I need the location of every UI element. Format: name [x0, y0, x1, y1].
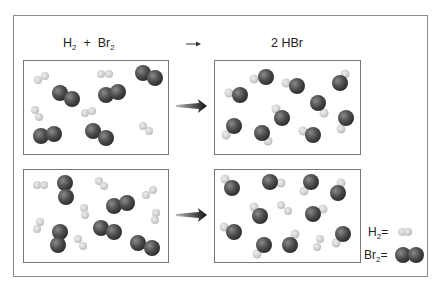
- hbr-molecule-icon: [332, 70, 350, 92]
- hbr-molecule-icon: [305, 205, 328, 223]
- legend-br2-molecule-icon: [395, 247, 424, 263]
- h2-molecule-icon: [34, 72, 49, 84]
- hbr-molecule-icon: [222, 118, 243, 140]
- h2-molecule-icon: [139, 122, 153, 135]
- legend-br2-text: Br: [364, 248, 376, 262]
- hbr-molecule-icon: [253, 237, 273, 259]
- hbr-molecule-icon: [330, 179, 346, 202]
- br2-molecule-icon: [50, 224, 68, 253]
- h2-molecule-icon: [151, 209, 160, 224]
- hbr-molecule-icon: [300, 174, 320, 196]
- hbr-molecule-icon: [299, 127, 322, 144]
- h2-molecule-icon: [313, 235, 324, 251]
- hbr-molecule-icon: [250, 203, 269, 225]
- br2-molecule-icon: [33, 126, 62, 144]
- hbr-molecule-icon: [220, 223, 243, 241]
- hbr-molecule-icon: [332, 226, 352, 248]
- hbr-molecule-icon: [310, 95, 329, 118]
- hbr-molecule-icon: [250, 69, 275, 85]
- br2-molecule-icon: [106, 195, 135, 214]
- legend-h2-label: H2=: [368, 225, 388, 241]
- molecule-layer: [0, 0, 439, 287]
- br2-molecule-icon: [57, 175, 74, 205]
- hbr-molecule-icon: [282, 78, 306, 94]
- h2-molecule-icon: [277, 201, 292, 215]
- br2-molecule-icon: [93, 220, 122, 240]
- h2-molecule-icon: [74, 235, 87, 250]
- hbr-molecule-icon: [254, 125, 273, 146]
- br2-molecule-icon: [85, 123, 114, 146]
- legend-br2-equals: =: [380, 248, 387, 262]
- legend-br2-label: Br2=: [364, 248, 387, 264]
- br2-molecule-icon: [52, 85, 80, 107]
- h2-molecule-icon: [33, 181, 48, 189]
- br2-molecule-icon: [130, 235, 160, 256]
- h2-molecule-icon: [142, 186, 157, 199]
- legend-h2-equals: =: [381, 225, 388, 239]
- h2-molecule-icon: [81, 107, 96, 117]
- h2-molecule-icon: [31, 106, 43, 121]
- hbr-molecule-icon: [221, 175, 241, 197]
- reaction-arrow-icon: [186, 42, 201, 47]
- hbr-molecule-icon: [337, 110, 355, 134]
- h2-molecule-icon: [97, 70, 113, 78]
- br2-molecule-icon: [98, 84, 126, 103]
- hbr-molecule-icon: [262, 174, 286, 190]
- h2-molecule-icon: [95, 177, 108, 190]
- legend-h2-text: H: [368, 225, 377, 239]
- hbr-molecule-icon: [272, 105, 291, 127]
- br2-molecule-icon: [135, 65, 163, 86]
- h2-molecule-icon: [80, 204, 89, 219]
- arrow-right-icon: [176, 99, 207, 113]
- hbr-molecule-icon: [282, 230, 300, 254]
- hbr-molecule-icon: [225, 87, 249, 103]
- arrow-right-icon: [176, 208, 207, 222]
- legend-h2-molecule-icon: [398, 228, 412, 236]
- h2-molecule-icon: [33, 218, 44, 233]
